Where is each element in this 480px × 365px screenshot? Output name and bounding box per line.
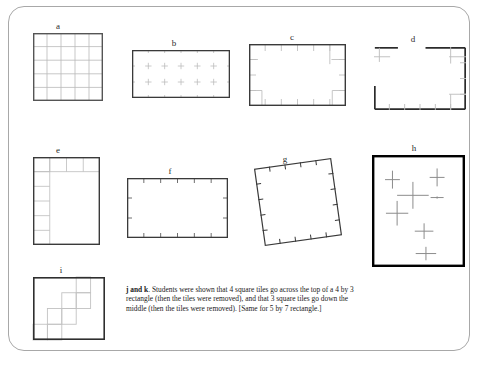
note-j-and-k: j and k. Students were shown that 4 squa… (126, 285, 370, 313)
figure-f (127, 178, 228, 238)
figure-label-h: h (404, 143, 424, 153)
note-lead: j and k (126, 285, 148, 294)
figure-label-i: i (51, 265, 71, 275)
figure-c (249, 44, 346, 106)
figure-g (254, 158, 342, 246)
figure-a (33, 33, 103, 101)
figure-label-a: a (48, 21, 68, 31)
figure-label-e: e (48, 145, 68, 155)
figure-label-b: b (164, 38, 184, 48)
figure-d (374, 47, 466, 110)
note-body: Students were shown that 4 square tiles … (126, 285, 354, 313)
figure-h (372, 155, 465, 267)
figure-label-f: f (160, 166, 180, 176)
figure-i (33, 277, 105, 340)
figure-label-c: c (282, 32, 302, 42)
figure-b (132, 50, 230, 98)
figure-e (33, 157, 100, 245)
worksheet-page: abcdefghi j and k. Students were shown t… (0, 0, 480, 365)
figure-label-d: d (403, 34, 423, 44)
